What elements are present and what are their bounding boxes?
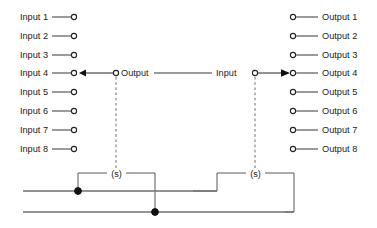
output-terminal-5[interactable] <box>290 89 295 94</box>
output-label-8: Output 8 <box>322 144 357 154</box>
input-label-4: Input 4 <box>20 68 48 78</box>
input-label-5: Input 5 <box>20 87 48 97</box>
input-label-8: Input 8 <box>20 144 48 154</box>
center-input-label: Input <box>216 68 237 78</box>
input-label-3: Input 3 <box>20 50 48 60</box>
input-label-1: Input 1 <box>20 12 48 22</box>
output-terminal-6[interactable] <box>290 108 295 113</box>
input-row-4 <box>52 70 77 75</box>
junction-dot-upper <box>75 188 82 195</box>
output-branch-left <box>79 70 119 77</box>
output-terminal-1[interactable] <box>290 14 295 19</box>
input-row-6 <box>52 108 77 113</box>
center-output-label: Output <box>121 68 149 78</box>
output-row-1 <box>290 14 318 19</box>
input-branch-right <box>252 69 290 76</box>
output-label-5: Output 5 <box>322 87 357 97</box>
output-row-3 <box>290 52 318 57</box>
input-terminal-8[interactable] <box>71 146 76 151</box>
switch-label-left: (s) <box>111 169 122 179</box>
output-row-7 <box>290 127 318 132</box>
arrow-right-icon <box>281 69 290 76</box>
input-row-2 <box>52 33 77 38</box>
input-terminal-4[interactable] <box>71 70 76 75</box>
output-node-terminal[interactable] <box>113 70 118 75</box>
output-terminal-2[interactable] <box>290 33 295 38</box>
output-label-2: Output 2 <box>322 31 357 41</box>
input-terminal-6[interactable] <box>71 108 76 113</box>
output-row-2 <box>290 33 318 38</box>
output-label-1: Output 1 <box>322 12 357 22</box>
output-terminal-8[interactable] <box>290 146 295 151</box>
output-row-5 <box>290 89 318 94</box>
input-terminal-7[interactable] <box>71 127 76 132</box>
input-node-terminal[interactable] <box>252 70 257 75</box>
input-row-7 <box>52 127 77 132</box>
switch-bracket-right[interactable] <box>193 173 294 212</box>
output-label-4: Output 4 <box>322 68 357 78</box>
input-row-3 <box>52 52 77 57</box>
output-row-6 <box>290 108 318 113</box>
schematic-svg: Input 1 Input 2 Input 3 Input 4 Input 5 … <box>0 0 377 228</box>
input-terminal-2[interactable] <box>71 33 76 38</box>
input-row-8 <box>52 146 77 151</box>
input-terminal-3[interactable] <box>71 52 76 57</box>
output-label-7: Output 7 <box>322 125 357 135</box>
diagram-canvas: Input 1 Input 2 Input 3 Input 4 Input 5 … <box>0 0 377 228</box>
output-row-8 <box>290 146 318 151</box>
junction-dot-lower <box>152 209 159 216</box>
input-label-6: Input 6 <box>20 106 48 116</box>
input-row-5 <box>52 89 77 94</box>
output-terminal-3[interactable] <box>290 52 295 57</box>
input-terminal-5[interactable] <box>71 89 76 94</box>
switch-bracket-left[interactable] <box>78 173 155 212</box>
input-label-2: Input 2 <box>20 31 48 41</box>
output-terminal-7[interactable] <box>290 127 295 132</box>
input-terminal-1[interactable] <box>71 14 76 19</box>
output-label-3: Output 3 <box>322 50 357 60</box>
switch-label-right: (s) <box>250 169 261 179</box>
input-label-7: Input 7 <box>20 125 48 135</box>
arrow-left-icon <box>79 70 86 77</box>
output-label-6: Output 6 <box>322 106 357 116</box>
output-row-4 <box>290 70 318 75</box>
input-row-1 <box>52 14 77 19</box>
output-terminal-4[interactable] <box>290 70 295 75</box>
